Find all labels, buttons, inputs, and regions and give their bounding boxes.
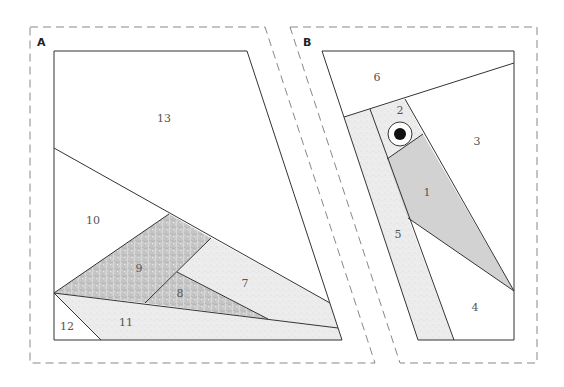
piece-9-label: 9	[136, 262, 143, 275]
panel-a: A 13 10 9 8 7 11 12	[30, 27, 375, 363]
piece-4-label: 4	[472, 301, 479, 314]
piece-2-label: 2	[397, 104, 404, 117]
piece-6-label: 6	[374, 71, 381, 84]
piece-8-label: 8	[177, 287, 184, 300]
piece-12-label: 12	[60, 320, 74, 333]
piece-5-label: 5	[395, 228, 402, 241]
pattern-diagram: A 13 10 9 8 7 11 12 B	[0, 0, 564, 387]
panel-b-label: B	[303, 36, 311, 49]
panel-a-label: A	[37, 36, 46, 49]
piece-3-label: 3	[474, 135, 481, 148]
piece-1-label: 1	[424, 186, 431, 199]
piece-13-label: 13	[157, 112, 171, 125]
piece-7-label: 7	[242, 277, 249, 290]
piece-11-label: 11	[119, 316, 133, 329]
piece-10-label: 10	[86, 214, 100, 227]
eye-icon	[388, 122, 412, 146]
